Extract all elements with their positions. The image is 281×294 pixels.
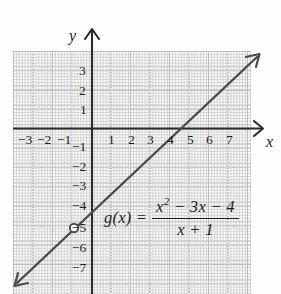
x-tick-label: 4 bbox=[167, 133, 174, 147]
y-tick-label: −3 bbox=[72, 179, 86, 193]
x-tick-label: 6 bbox=[206, 133, 213, 147]
graph-figure: y x −3 −2 −1 1 2 3 4 5 6 7 3 2 1 −1 −2 −… bbox=[0, 0, 281, 294]
formula-denominator: x + 1 bbox=[173, 219, 217, 240]
numerator-variable: x bbox=[156, 197, 164, 216]
numerator-remainder: − 3x − 4 bbox=[174, 197, 235, 216]
y-axis-label: y bbox=[69, 28, 76, 44]
x-tick-label: −1 bbox=[57, 133, 71, 147]
y-tick-label: −5 bbox=[72, 221, 86, 235]
y-tick-label: −7 bbox=[72, 261, 86, 275]
y-tick-label: −6 bbox=[72, 241, 86, 255]
x-tick-label: 3 bbox=[147, 133, 154, 147]
y-tick-label: 1 bbox=[80, 103, 87, 117]
y-tick-label: −1 bbox=[72, 140, 86, 154]
formula-fraction: x2 − 3x − 4 x + 1 bbox=[152, 195, 239, 240]
x-axis-label: x bbox=[266, 134, 273, 150]
x-tick-label: 5 bbox=[187, 133, 194, 147]
function-formula-annotation: g(x) = x2 − 3x − 4 x + 1 bbox=[104, 195, 239, 240]
x-tick-label: 1 bbox=[108, 133, 115, 147]
y-tick-label: −2 bbox=[72, 160, 86, 174]
x-tick-label: 7 bbox=[226, 133, 233, 147]
graph-canvas bbox=[0, 0, 281, 294]
y-tick-label: 2 bbox=[79, 84, 86, 98]
y-tick-label: −4 bbox=[72, 199, 86, 213]
x-tick-label: −3 bbox=[18, 133, 32, 147]
y-tick-label: 3 bbox=[79, 64, 86, 78]
formula-left-side: g(x) = bbox=[104, 208, 147, 228]
formula-numerator: x2 − 3x − 4 bbox=[152, 195, 239, 218]
x-tick-label: −2 bbox=[37, 133, 51, 147]
x-tick-label: 2 bbox=[128, 133, 135, 147]
numerator-exponent: 2 bbox=[164, 195, 170, 207]
function-curve bbox=[17, 57, 257, 283]
